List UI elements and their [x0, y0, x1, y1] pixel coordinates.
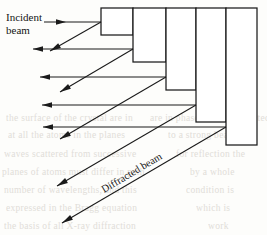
incident-ray-4-arrowhead — [42, 102, 52, 107]
diffracted-ray-2 — [60, 49, 133, 92]
crystal-step-4 — [196, 8, 226, 122]
diffracted-ray-5-arrowhead — [62, 215, 73, 223]
diffracted-ray-3-arrowhead — [60, 131, 71, 139]
incident-ray-5-arrowhead — [43, 124, 53, 129]
diffraction-figure: the surface of the crystal are inare in … — [0, 0, 267, 235]
incident-ray-1-arrowhead — [56, 19, 66, 24]
diffracted-ray-1-arrowhead — [50, 43, 61, 51]
incident-ray-3-arrowhead — [40, 74, 50, 79]
diffracted-ray-5 — [62, 127, 226, 223]
crystal-step-1 — [101, 8, 133, 35]
incident-beam-label-line1: Incident — [6, 11, 42, 23]
diffracted-ray-4-arrowhead — [57, 178, 68, 186]
diffracted-beam-label: Diffracted beam — [99, 151, 163, 195]
incident-ray-2-arrowhead — [33, 46, 43, 51]
crystal-step-5 — [226, 8, 257, 145]
diffracted-ray-3 — [60, 77, 166, 139]
diffracted-ray-2-arrowhead — [60, 84, 71, 92]
crystal-step-2 — [133, 8, 166, 62]
crystal-step-3 — [166, 8, 196, 90]
incident-beam-label-line2: beam — [6, 24, 30, 36]
diffraction-diagram-canvas: Incident beam Diffracted beam — [0, 0, 267, 235]
